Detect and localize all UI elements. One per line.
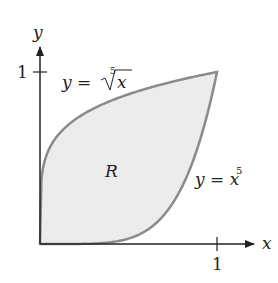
region-label: R xyxy=(104,161,118,181)
y-tick-label: 1 xyxy=(17,62,28,82)
fifth-power-label: y = x 5 xyxy=(194,165,242,189)
svg-text:5: 5 xyxy=(236,165,242,176)
svg-text:y =: y = xyxy=(61,72,91,92)
y-axis-label: y xyxy=(32,22,43,42)
x-tick-label: 1 xyxy=(212,254,223,274)
x-axis-label: x xyxy=(262,233,272,253)
svg-text:y = x: y = x xyxy=(194,169,240,189)
fifth-root-label: y = 5 x xyxy=(61,66,132,92)
svg-text:x: x xyxy=(117,72,127,92)
diagram: x y 1 1 y = 5 x R y = x 5 xyxy=(0,0,278,283)
region-r xyxy=(40,72,217,244)
